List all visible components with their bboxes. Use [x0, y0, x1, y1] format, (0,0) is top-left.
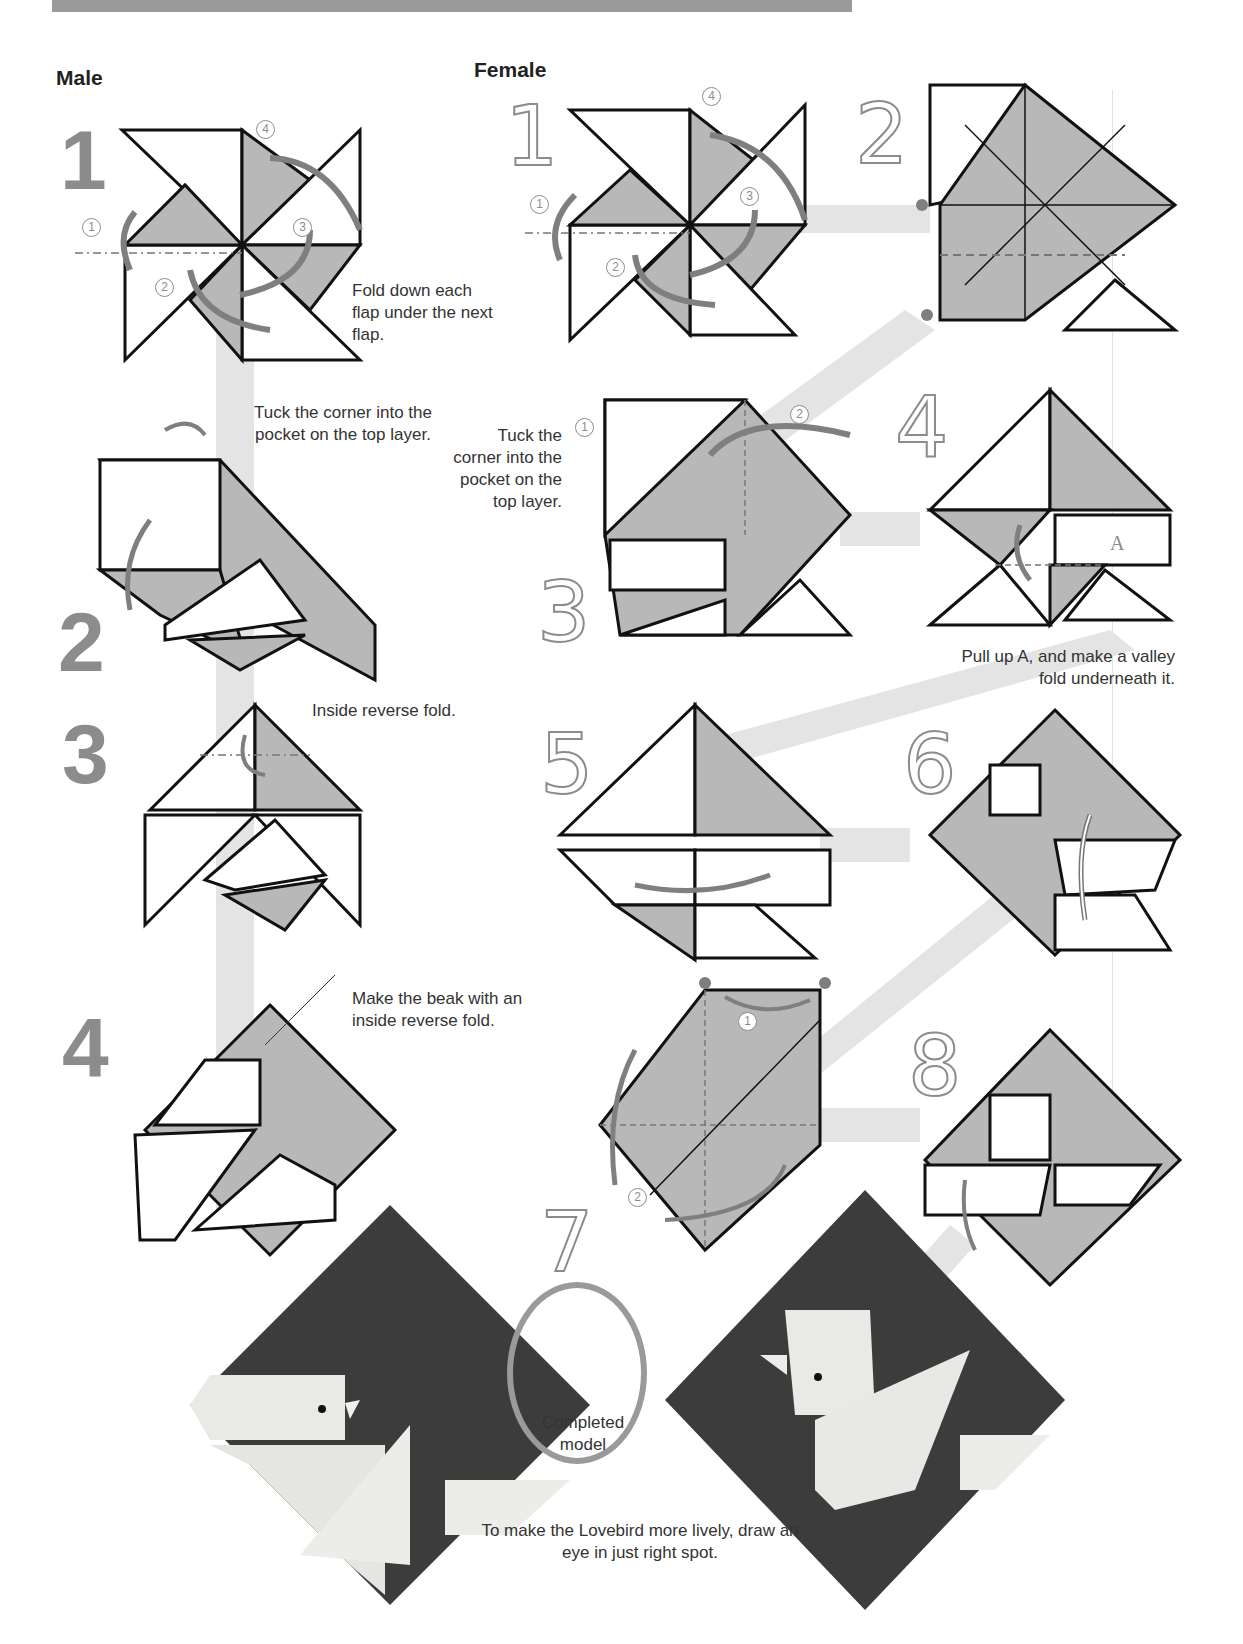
female-7-substep-1-badge: 1 — [738, 1012, 757, 1031]
male-step-4-caption: Make the beak with an inside reverse fol… — [352, 988, 552, 1032]
female-1-substep-1-badge: 1 — [530, 195, 549, 214]
male-1-substep-1-badge: 1 — [82, 218, 101, 237]
male-step-2-diagram — [90, 430, 380, 680]
male-step-2-caption: Tuck the corner into the pocket on the t… — [248, 402, 438, 446]
female-step-4-diagram: A — [925, 385, 1185, 630]
male-step-number-4: 4 — [62, 1006, 109, 1090]
completed-model-tip: To make the Lovebird more lively, draw a… — [470, 1520, 810, 1564]
female-step-number-3: 3 — [537, 570, 590, 654]
male-step-3-diagram — [145, 700, 385, 935]
male-1-substep-2-badge: 2 — [155, 278, 174, 297]
female-step-number-2: 2 — [855, 92, 908, 176]
female-step-4-caption: Pull up A, and make a valley fold undern… — [930, 646, 1175, 690]
completed-model-label: Completed model — [538, 1412, 628, 1456]
female-step-1-diagram — [540, 100, 850, 345]
female-1-substep-2-badge: 2 — [606, 258, 625, 277]
female-step-3-diagram — [600, 395, 860, 640]
female-7-substep-2-badge: 2 — [628, 1188, 647, 1207]
female-step-2-diagram — [925, 85, 1185, 335]
male-step-1-diagram — [70, 120, 390, 370]
male-step-3-caption: Inside reverse fold. — [312, 700, 512, 722]
female-step-3-caption: Tuck the corner into the pocket on the t… — [450, 425, 562, 513]
svg-text:A: A — [1110, 532, 1125, 554]
female-step-6-diagram — [925, 705, 1185, 955]
female-1-substep-3-badge: 3 — [740, 187, 759, 206]
female-step-5-diagram — [555, 700, 835, 960]
male-step-number-3: 3 — [62, 712, 109, 796]
female-3-substep-1-badge: 1 — [575, 418, 594, 437]
female-3-substep-2-badge: 2 — [790, 405, 809, 424]
male-1-substep-4-badge: 4 — [256, 120, 275, 139]
male-step-1-caption: Fold down each flap under the next flap. — [352, 280, 502, 346]
male-1-substep-3-badge: 3 — [293, 218, 312, 237]
female-1-substep-4-badge: 4 — [702, 87, 721, 106]
